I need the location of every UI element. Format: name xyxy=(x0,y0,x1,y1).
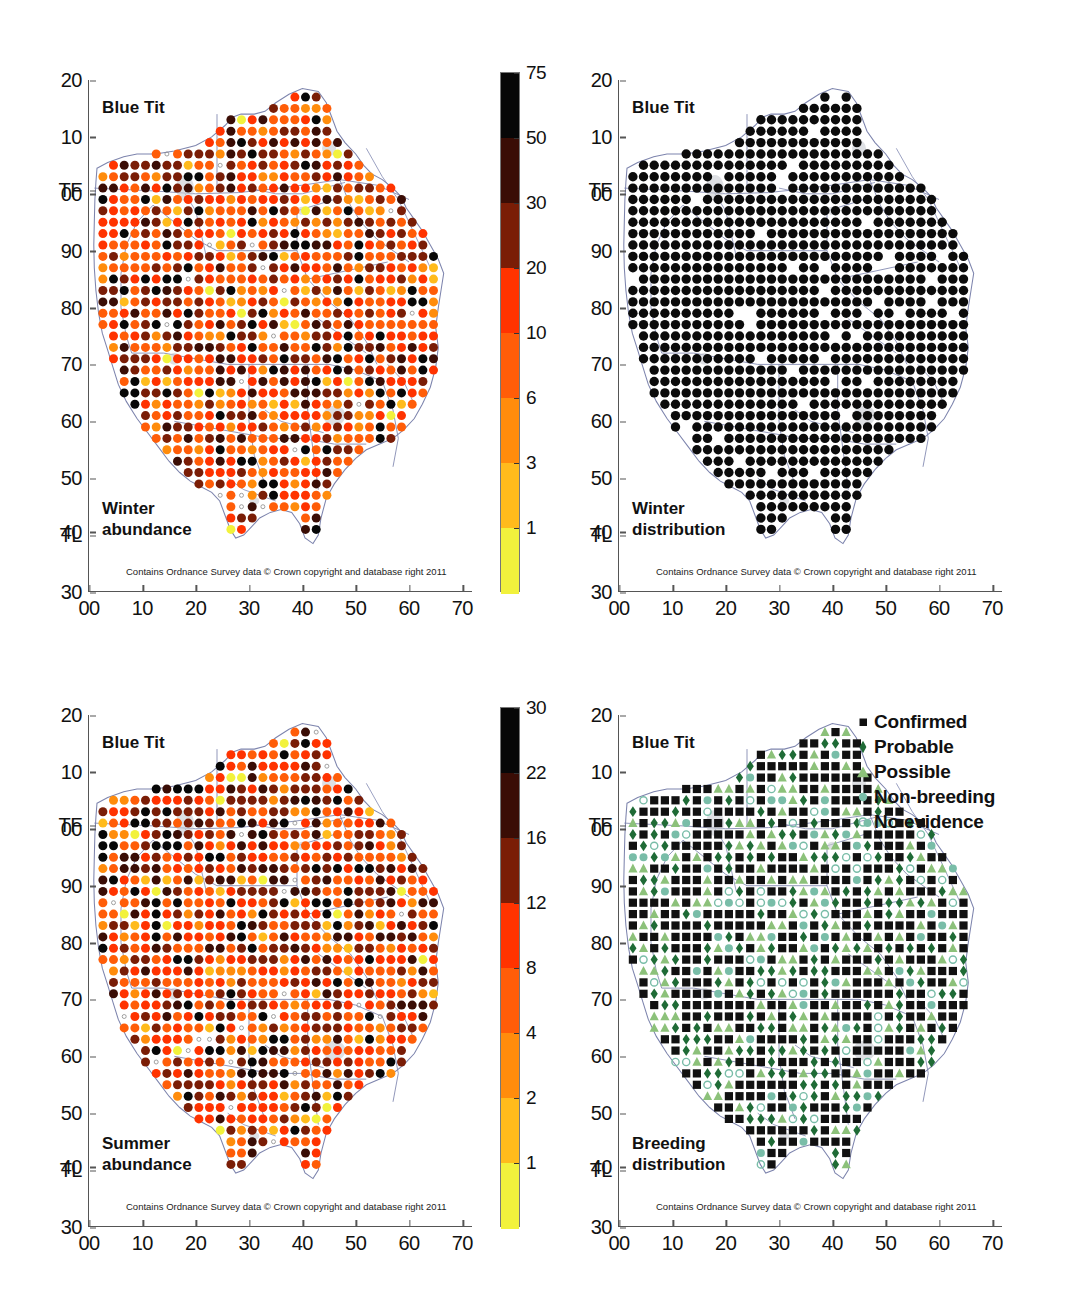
panel-title: Blue Tit xyxy=(632,733,695,753)
x-tick-00: 00 xyxy=(78,1226,99,1255)
y-tick-80: 80 xyxy=(61,296,89,319)
panel-title: Blue Tit xyxy=(102,733,165,753)
x-tick-30: 30 xyxy=(768,1226,789,1255)
colorbar-label-10: 10 xyxy=(519,322,546,344)
y-tick-TL: TL xyxy=(590,1159,619,1182)
colorbar-segment xyxy=(501,333,519,399)
colorbar-segment xyxy=(501,1033,519,1099)
x-tick-70: 70 xyxy=(982,1226,1003,1255)
legend-item-confirmed: Confirmed xyxy=(852,709,995,734)
panel-title: Blue Tit xyxy=(102,98,165,118)
diamond-icon xyxy=(852,739,874,755)
legend-item-no-evidence: No evidence xyxy=(852,809,995,834)
x-tick-60: 60 xyxy=(928,591,949,620)
colorbar-segment xyxy=(501,1163,519,1229)
colorbar-label-50: 50 xyxy=(519,127,546,149)
colorbar-label-20: 20 xyxy=(519,257,546,279)
colorbar-label-75: 75 xyxy=(519,62,546,84)
y-tick-20: 20 xyxy=(591,69,619,92)
colorbar-label-22: 22 xyxy=(519,762,546,784)
circle-icon xyxy=(852,789,874,805)
panel-subtitle: Breedingdistribution xyxy=(632,1133,725,1176)
legend-item-probable: Probable xyxy=(852,734,995,759)
breeding-legend: Confirmed Probable Possible Non-breeding xyxy=(852,709,995,834)
colorbar-segment xyxy=(501,463,519,529)
colorbar-label-12: 12 xyxy=(519,892,546,914)
legend-label: Confirmed xyxy=(874,711,967,733)
panel-subtitle: Winterdistribution xyxy=(632,498,725,541)
colorbar-segment xyxy=(501,838,519,904)
attribution-text: Contains Ordnance Survey data © Crown co… xyxy=(656,1201,977,1212)
x-tick-10: 10 xyxy=(662,1226,683,1255)
x-tick-50: 50 xyxy=(875,1226,896,1255)
attribution-text: Contains Ordnance Survey data © Crown co… xyxy=(126,1201,447,1212)
colorbar-segment xyxy=(501,138,519,204)
y-tick-60: 60 xyxy=(591,1045,619,1068)
x-tick-10: 10 xyxy=(132,591,153,620)
y-tick-TL: TL xyxy=(590,524,619,547)
x-tick-20: 20 xyxy=(185,1226,206,1255)
open-circle-icon xyxy=(852,814,874,830)
y-tick-70: 70 xyxy=(591,988,619,1011)
colorbar-segment xyxy=(501,773,519,839)
x-tick-70: 70 xyxy=(452,1226,473,1255)
colorbar-segment xyxy=(501,1098,519,1164)
x-tick-60: 60 xyxy=(398,591,419,620)
panel-subtitle: Summerabundance xyxy=(102,1133,192,1176)
panel-title: Blue Tit xyxy=(632,98,695,118)
panel-breeding-distribution: 2010TF00908070605040TL300010203040506070… xyxy=(618,715,1002,1227)
y-tick-50: 50 xyxy=(61,1102,89,1125)
x-tick-00: 00 xyxy=(608,1226,629,1255)
colorbar-segment xyxy=(501,528,519,594)
x-tick-50: 50 xyxy=(345,591,366,620)
x-tick-30: 30 xyxy=(768,591,789,620)
y-tick-50: 50 xyxy=(61,467,89,490)
x-tick-00: 00 xyxy=(78,591,99,620)
y-tick-60: 60 xyxy=(61,1045,89,1068)
colorbar-summer-abundance: 302216128421 xyxy=(500,707,520,1227)
y-tick-70: 70 xyxy=(591,353,619,376)
colorbar-label-1: 1 xyxy=(519,517,536,539)
colorbar-segment xyxy=(501,268,519,334)
x-tick-70: 70 xyxy=(982,591,1003,620)
x-tick-10: 10 xyxy=(662,591,683,620)
y-tick-10: 10 xyxy=(591,125,619,148)
y-tick-00: 00 xyxy=(61,182,89,205)
legend-label: Possible xyxy=(874,761,951,783)
x-tick-40: 40 xyxy=(822,1226,843,1255)
y-tick-70: 70 xyxy=(61,988,89,1011)
legend-item-non-breeding: Non-breeding xyxy=(852,784,995,809)
colorbar-segment xyxy=(501,968,519,1034)
colorbar-segment xyxy=(501,903,519,969)
colorbar-segment xyxy=(501,203,519,269)
y-tick-80: 80 xyxy=(591,296,619,319)
x-tick-50: 50 xyxy=(875,591,896,620)
y-tick-60: 60 xyxy=(591,410,619,433)
colorbar-label-4: 4 xyxy=(519,1022,536,1044)
y-tick-00: 00 xyxy=(591,182,619,205)
colorbar-segment xyxy=(501,73,519,139)
x-tick-40: 40 xyxy=(822,591,843,620)
triangle-icon xyxy=(852,764,874,780)
legend-label: Probable xyxy=(874,736,954,758)
colorbar-label-30: 30 xyxy=(519,697,546,719)
square-icon xyxy=(852,714,874,730)
y-tick-90: 90 xyxy=(591,239,619,262)
x-tick-20: 20 xyxy=(185,591,206,620)
y-tick-00: 00 xyxy=(591,817,619,840)
colorbar-label-2: 2 xyxy=(519,1087,536,1109)
legend-label: No evidence xyxy=(874,811,984,833)
y-tick-80: 80 xyxy=(61,931,89,954)
x-tick-20: 20 xyxy=(715,591,736,620)
x-tick-30: 30 xyxy=(238,591,259,620)
y-tick-20: 20 xyxy=(591,704,619,727)
y-tick-10: 10 xyxy=(591,760,619,783)
x-tick-20: 20 xyxy=(715,1226,736,1255)
colorbar-label-6: 6 xyxy=(519,387,536,409)
x-tick-30: 30 xyxy=(238,1226,259,1255)
y-tick-90: 90 xyxy=(61,874,89,897)
y-tick-90: 90 xyxy=(591,874,619,897)
colorbar-label-8: 8 xyxy=(519,957,536,979)
x-tick-50: 50 xyxy=(345,1226,366,1255)
x-tick-00: 00 xyxy=(608,591,629,620)
